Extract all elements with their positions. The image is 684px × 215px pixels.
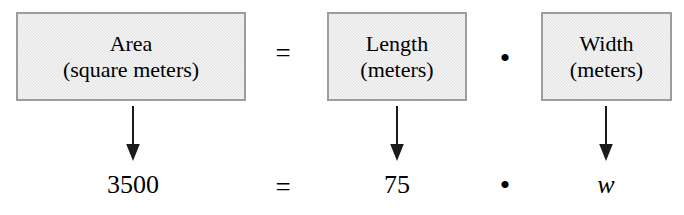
equals-operator-top: =: [259, 40, 307, 67]
box-area-units-label: (square meters): [63, 57, 199, 82]
substituted-value-width-variable: w: [576, 172, 636, 198]
verbal-model-box-area: Area (square meters): [16, 12, 246, 101]
box-area-quantity-label: Area: [110, 31, 153, 56]
verbal-model-box-length: Length (meters): [327, 12, 467, 101]
multiply-operator-bottom: •: [481, 170, 529, 200]
down-arrow-icon-area: [121, 106, 145, 162]
verbal-model-diagram: Area (square meters) = Length (meters) •…: [0, 0, 684, 215]
down-arrow-icon-width: [594, 106, 618, 162]
equals-operator-bottom: =: [259, 174, 307, 201]
substituted-value-area: 3500: [83, 172, 183, 198]
box-width-units-label: (meters): [570, 57, 643, 82]
box-length-quantity-label: Length: [366, 31, 428, 56]
down-arrow-icon-length: [385, 106, 409, 162]
box-width-quantity-label: Width: [579, 31, 633, 56]
multiply-operator-top: •: [481, 43, 529, 73]
verbal-model-box-width: Width (meters): [541, 12, 672, 101]
substituted-value-length: 75: [357, 172, 437, 198]
box-length-units-label: (meters): [360, 57, 433, 82]
